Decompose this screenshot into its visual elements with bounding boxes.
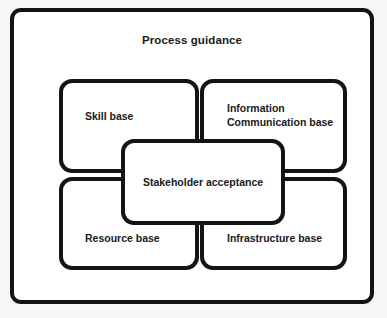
box-stakeholder-acceptance-label: Stakeholder acceptance (125, 176, 281, 188)
box-stakeholder-acceptance: Stakeholder acceptance (121, 139, 285, 225)
box-resource-base-label: Resource base (85, 231, 160, 245)
box-information-communication-base-label: Information Communication base (227, 101, 333, 129)
process-guidance-title: Process guidance (14, 34, 370, 46)
box-skill-base-label: Skill base (85, 109, 133, 123)
box-infrastructure-base-label: Infrastructure base (227, 231, 322, 245)
process-guidance-container: Process guidance Skill base Information … (10, 8, 374, 304)
diagram-canvas: Process guidance Skill base Information … (0, 0, 387, 318)
